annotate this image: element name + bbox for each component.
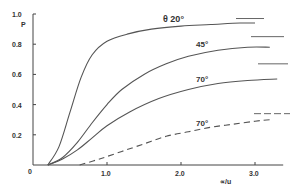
- x-tick-label: 2.0: [175, 170, 185, 177]
- y-tick-label: 0.2: [12, 132, 22, 139]
- curve-labels: θ 20° 45° 70° 70°: [163, 14, 208, 128]
- curve-label-45: 45°: [196, 40, 208, 49]
- y-tick-label: 1.0: [12, 11, 22, 18]
- curve-0: [48, 23, 255, 165]
- y-tick-label: 0.6: [12, 71, 22, 78]
- curve-2: [48, 79, 277, 165]
- y-tick-label: 0: [28, 168, 32, 175]
- chart: 00.20.40.60.81.0P1.02.03.0∝/u θ 20° 45° …: [0, 0, 304, 189]
- curve-3: [80, 120, 270, 165]
- asymptotes: [236, 19, 290, 114]
- x-tick-label: 1.0: [101, 170, 111, 177]
- curve-label-70: 70°: [196, 75, 208, 84]
- x-tick-label: 3.0: [249, 170, 259, 177]
- curves: [48, 23, 277, 165]
- y-axis-label: P: [21, 21, 26, 28]
- y-tick-label: 0.4: [12, 102, 22, 109]
- y-tick-label: 0.8: [12, 41, 22, 48]
- curve-label-70-dashed: 70°: [196, 119, 208, 128]
- curve-label-20: θ 20°: [163, 14, 184, 24]
- x-axis-label: ∝/u: [220, 178, 231, 185]
